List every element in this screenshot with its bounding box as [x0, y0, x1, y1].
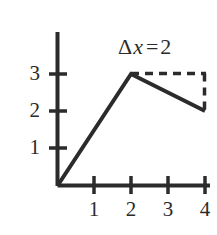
- function-curve: [58, 74, 205, 185]
- delta-value: 2: [158, 34, 171, 59]
- x-tick-label-3: 3: [158, 199, 178, 220]
- x-tick-label-1: 1: [84, 199, 104, 220]
- equals-sign: =: [143, 34, 158, 59]
- x-tick-label-2: 2: [121, 199, 141, 220]
- variable-x: x: [132, 34, 143, 59]
- delta-x-line-graph-figure: 3 2 1 1 2 3 4 Δx=2: [0, 0, 217, 235]
- x-tick-label-4: 4: [195, 199, 215, 220]
- y-tick-label-2: 2: [20, 100, 40, 121]
- y-tick-label-3: 3: [20, 63, 40, 84]
- delta-symbol: Δ: [118, 34, 132, 59]
- y-tick-label-1: 1: [20, 137, 40, 158]
- delta-x-annotation: Δx=2: [118, 36, 171, 58]
